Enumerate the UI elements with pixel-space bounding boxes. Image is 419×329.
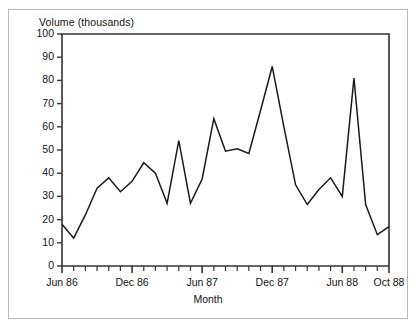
y-tick-label: 40	[28, 166, 54, 178]
y-tick-label: 100	[28, 27, 54, 39]
y-tick-label: 50	[28, 143, 54, 155]
x-tick-label: Jun 87	[171, 276, 233, 288]
y-tick-label: 80	[28, 73, 54, 85]
x-tick-label: Jun 86	[31, 276, 93, 288]
figure-frame: Volume (thousands) Month 010203040506070…	[8, 9, 408, 319]
y-tick-label: 90	[28, 50, 54, 62]
x-tick-label: Oct 88	[358, 276, 419, 288]
x-tick-label: Dec 86	[101, 276, 163, 288]
y-tick-label: 0	[28, 259, 54, 271]
x-axis-title: Month	[9, 293, 407, 305]
line-chart	[9, 10, 409, 320]
y-tick-label: 20	[28, 213, 54, 225]
y-tick-label: 10	[28, 236, 54, 248]
y-tick-label: 60	[28, 120, 54, 132]
y-tick-label: 70	[28, 97, 54, 109]
plot-area	[9, 10, 409, 320]
x-tick-label: Dec 87	[241, 276, 303, 288]
y-tick-label: 30	[28, 189, 54, 201]
